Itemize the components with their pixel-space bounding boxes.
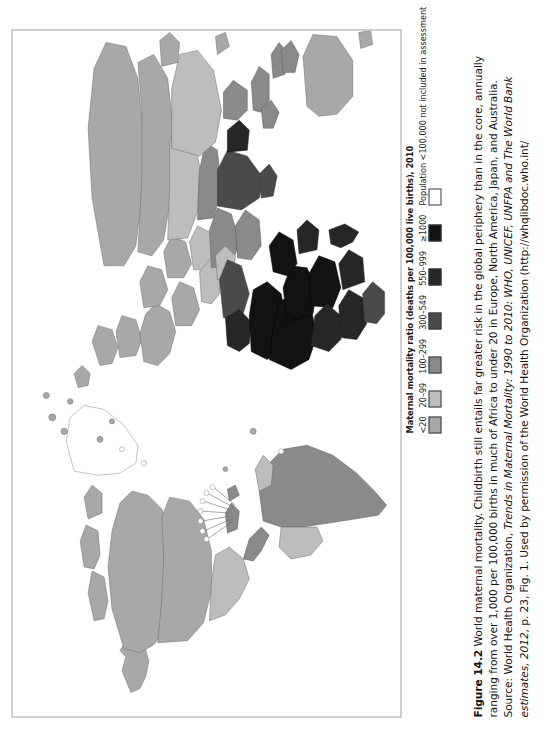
legend-item-3: 300–549 [418, 294, 441, 329]
legend-item-5: ≥1000 [418, 214, 441, 241]
caption-line-2: ranging from over 1,000 per 100,000 birt… [485, 17, 500, 717]
legend-swatch-1 [428, 390, 441, 407]
figure-page: .c20 { fill:#a8a8a8; stroke:#6b6b6b; str… [0, 0, 559, 733]
legend-swatch-3 [428, 312, 441, 329]
legend-swatch-5 [428, 224, 441, 241]
legend-swatch-4 [428, 268, 441, 285]
legend-label-2: 100–299 [418, 338, 426, 373]
legend-items: <20 20–99 100–299 300–549 550–999 ≥1000 [418, 41, 441, 433]
figure-caption: Figure 14.2 World maternal mortality. Ch… [470, 17, 531, 717]
map-figure-frame: .c20 { fill:#a8a8a8; stroke:#6b6b6b; str… [11, 29, 401, 717]
legend-label-4: 550–999 [418, 250, 426, 285]
legend-label-5: ≥1000 [418, 214, 426, 241]
legend-title: Maternal mortality ratio (deaths per 100… [404, 41, 414, 433]
caption-line-3: Source: World Health Organization, Trend… [500, 17, 515, 717]
legend-label-3: 300–549 [418, 294, 426, 329]
caption-line-4: estimates, 2012, p. 23, Fig. 1. Used by … [516, 17, 531, 717]
caption-line-3-text: Source: World Health Organization, [501, 529, 513, 717]
legend-swatch-0 [428, 416, 441, 433]
legend-item-1: 20–99 [418, 382, 441, 407]
legend-item-2: 100–299 [418, 338, 441, 373]
legend-swatch-2 [428, 356, 441, 373]
caption-line-4-text: , p. 23, Fig. 1. Used by permission of t… [517, 140, 529, 632]
legend-item-0: <20 [418, 416, 441, 433]
world-map: .c20 { fill:#a8a8a8; stroke:#6b6b6b; str… [12, 30, 400, 716]
map-legend: Maternal mortality ratio (deaths per 100… [404, 41, 462, 433]
legend-label-6: Population <100,000 not included in asse… [418, 6, 426, 205]
legend-item-4: 550–999 [418, 250, 441, 285]
caption-line-2-text: ranging from over 1,000 per 100,000 birt… [486, 80, 498, 717]
caption-line-1-text: World maternal mortality. Childbirth sti… [471, 56, 483, 650]
figure-number: Figure 14.2 [471, 649, 483, 717]
caption-line-1: Figure 14.2 World maternal mortality. Ch… [470, 17, 485, 717]
caption-line-4-italic: estimates, 2012 [517, 632, 529, 717]
legend-label-1: 20–99 [418, 382, 426, 407]
legend-swatch-6 [428, 188, 441, 205]
legend-item-6: Population <100,000 not included in asse… [418, 6, 441, 205]
caption-line-3-italic: Trends in Maternal Mortality: 1990 to 20… [501, 76, 513, 529]
legend-label-0: <20 [418, 416, 426, 433]
